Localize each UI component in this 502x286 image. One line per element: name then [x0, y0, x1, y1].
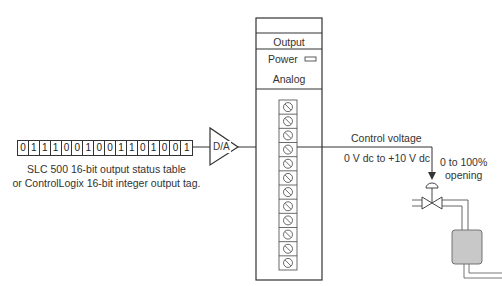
module-analog-label: Analog [256, 73, 322, 85]
module-output-label: Output [256, 36, 322, 48]
bit-cell: 1 [40, 141, 51, 155]
module-power-label: Power [268, 53, 298, 65]
bit-cell: 0 [72, 141, 83, 155]
bit-cell: 0 [160, 141, 171, 155]
bit-cell: 0 [105, 141, 116, 155]
bit-cell: 0 [170, 141, 181, 155]
register-caption-line2: or ControlLogix 16-bit integer output ta… [10, 177, 203, 189]
bit-cell: 0 [94, 141, 105, 155]
arrow-down-icon [428, 172, 436, 180]
tank-icon [452, 230, 482, 264]
bit-cell: 1 [127, 141, 138, 155]
bit-cell: 0 [62, 141, 73, 155]
signal-label-line2: 0 V dc to +10 V dc [344, 152, 430, 164]
bit-cell: 1 [116, 141, 127, 155]
valve-opening-line1: 0 to 100% [440, 156, 487, 168]
bit-cell: 1 [51, 141, 62, 155]
register-caption-line1: SLC 500 16-bit output status table [14, 163, 199, 175]
signal-label-line1: Control voltage [351, 132, 422, 144]
bit-register: 0 1 1 1 0 0 1 0 0 1 1 0 1 0 0 1 [17, 140, 193, 156]
bit-cell: 0 [18, 141, 29, 155]
power-led-icon [305, 57, 316, 61]
valve-opening-line2: opening [445, 169, 482, 181]
valve-actuator-icon [426, 183, 438, 188]
bit-cell: 1 [149, 141, 160, 155]
bit-cell: 1 [181, 141, 192, 155]
bit-cell: 0 [138, 141, 149, 155]
bit-cell: 1 [29, 141, 40, 155]
da-label: D/A [212, 141, 231, 153]
bit-cell: 1 [83, 141, 94, 155]
